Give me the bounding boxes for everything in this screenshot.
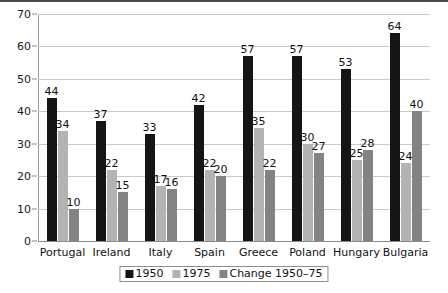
bar-group-bulgaria: 642440 <box>390 14 422 241</box>
bar-hungary-series-1[interactable]: 25 <box>352 160 362 241</box>
bar-value-label: 33 <box>143 122 157 133</box>
plot-area: 0102030405060704434103722153317164222205… <box>38 14 430 241</box>
y-tick-label-0: 0 <box>24 235 31 248</box>
bar-group-ireland: 372215 <box>96 14 128 241</box>
bar-ireland-series-2[interactable]: 15 <box>118 192 128 241</box>
y-tick-mark-70 <box>32 14 37 15</box>
bar-poland-series-2[interactable]: 27 <box>314 153 324 241</box>
x-label-italy: Italy <box>149 246 173 259</box>
bar-ireland-series-0[interactable]: 37 <box>96 121 106 241</box>
y-tick-label-30: 30 <box>17 137 31 150</box>
bar-group-italy: 331716 <box>145 14 177 241</box>
bar-group-portugal: 443410 <box>47 14 79 241</box>
bar-bulgaria-series-0[interactable]: 64 <box>390 33 400 241</box>
y-tick-mark-10 <box>32 208 37 209</box>
bar-value-label: 22 <box>263 158 277 169</box>
legend-item-0[interactable]: 1950 <box>125 268 163 279</box>
bar-value-label: 16 <box>165 177 179 188</box>
bar-value-label: 35 <box>252 116 266 127</box>
legend-label-1: 1975 <box>182 268 210 279</box>
bar-group-hungary: 532528 <box>341 14 373 241</box>
bar-hungary-series-2[interactable]: 28 <box>363 150 373 241</box>
x-label-portugal: Portugal <box>40 246 86 259</box>
bar-italy-series-2[interactable]: 16 <box>167 189 177 241</box>
bar-poland-series-1[interactable]: 30 <box>303 144 313 241</box>
bar-value-label: 22 <box>105 158 119 169</box>
y-tick-label-60: 60 <box>17 40 31 53</box>
y-tick-label-70: 70 <box>17 8 31 21</box>
chart-legend: 19501975Change 1950–75 <box>119 266 328 282</box>
bar-value-label: 64 <box>388 21 402 32</box>
y-tick-mark-0 <box>32 241 37 242</box>
bar-value-label: 37 <box>94 109 108 120</box>
bar-italy-series-0[interactable]: 33 <box>145 134 155 241</box>
bar-value-label: 57 <box>290 44 304 55</box>
bar-value-label: 20 <box>214 164 228 175</box>
x-axis-labels: PortugalIrelandItalySpainGreecePolandHun… <box>38 246 430 262</box>
y-tick-mark-50 <box>32 78 37 79</box>
legend-item-2[interactable]: Change 1950–75 <box>219 268 322 279</box>
bar-spain-series-2[interactable]: 20 <box>216 176 226 241</box>
bar-portugal-series-2[interactable]: 10 <box>69 209 79 241</box>
bar-value-label: 42 <box>192 93 206 104</box>
bar-italy-series-1[interactable]: 17 <box>156 186 166 241</box>
y-tick-label-10: 10 <box>17 202 31 215</box>
bar-value-label: 40 <box>410 99 424 110</box>
bar-greece-series-0[interactable]: 57 <box>243 56 253 241</box>
bar-group-poland: 573027 <box>292 14 324 241</box>
legend-swatch-icon-0 <box>125 270 133 278</box>
legend-label-0: 1950 <box>135 268 163 279</box>
x-label-poland: Poland <box>289 246 326 259</box>
bar-portugal-series-1[interactable]: 34 <box>58 131 68 241</box>
legend-label-2: Change 1950–75 <box>229 268 322 279</box>
x-label-ireland: Ireland <box>92 246 130 259</box>
bar-value-label: 44 <box>45 86 59 97</box>
bar-value-label: 53 <box>339 57 353 68</box>
bar-poland-series-0[interactable]: 57 <box>292 56 302 241</box>
y-tick-label-50: 50 <box>17 72 31 85</box>
bar-bulgaria-series-2[interactable]: 40 <box>412 111 422 241</box>
bar-value-label: 34 <box>56 119 70 130</box>
legend-swatch-icon-2 <box>219 270 227 278</box>
y-tick-mark-30 <box>32 143 37 144</box>
legend-item-1[interactable]: 1975 <box>172 268 210 279</box>
bar-value-label: 57 <box>241 44 255 55</box>
bar-greece-series-1[interactable]: 35 <box>254 128 264 242</box>
bar-spain-series-0[interactable]: 42 <box>194 105 204 241</box>
bar-value-label: 24 <box>399 151 413 162</box>
x-label-greece: Greece <box>239 246 278 259</box>
y-tick-label-40: 40 <box>17 105 31 118</box>
bar-group-spain: 422220 <box>194 14 226 241</box>
bar-greece-series-2[interactable]: 22 <box>265 170 275 241</box>
bar-bulgaria-series-1[interactable]: 24 <box>401 163 411 241</box>
x-label-spain: Spain <box>194 246 225 259</box>
y-tick-mark-20 <box>32 176 37 177</box>
grouped-bar-chart: 0102030405060704434103722153317164222205… <box>0 0 448 293</box>
bar-value-label: 27 <box>312 141 326 152</box>
bar-group-greece: 573522 <box>243 14 275 241</box>
y-tick-label-20: 20 <box>17 170 31 183</box>
x-label-bulgaria: Bulgaria <box>383 246 429 259</box>
bar-value-label: 10 <box>67 197 81 208</box>
bar-value-label: 28 <box>361 138 375 149</box>
y-tick-mark-60 <box>32 46 37 47</box>
x-label-hungary: Hungary <box>333 246 380 259</box>
bar-spain-series-1[interactable]: 22 <box>205 170 215 241</box>
legend-swatch-icon-1 <box>172 270 180 278</box>
gridline-0 <box>38 241 430 242</box>
bar-value-label: 15 <box>116 180 130 191</box>
y-tick-mark-40 <box>32 111 37 112</box>
